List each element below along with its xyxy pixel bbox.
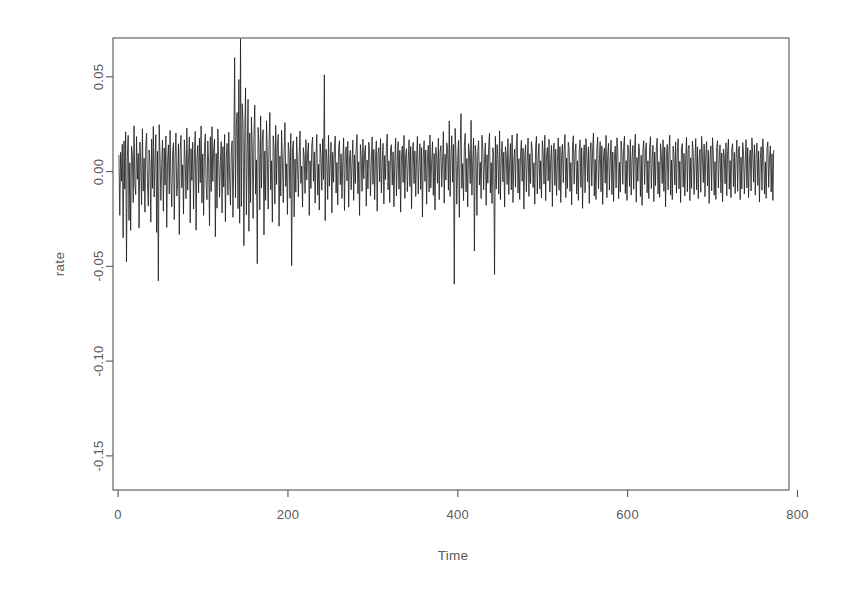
- xtick-label-1: 200: [258, 507, 318, 522]
- y-axis-title: rate: [51, 234, 69, 294]
- ytick-label-3: -0.10: [90, 333, 108, 389]
- ytick-label-1: 0.00: [90, 144, 108, 200]
- ytick-label-4: -0.15: [90, 428, 108, 484]
- ytick-label-2: -0.05: [90, 238, 108, 294]
- xtick-label-0: 0: [88, 507, 148, 522]
- xtick-label-3: 600: [598, 507, 658, 522]
- xtick-label-4: 800: [767, 507, 827, 522]
- plot-root: 0.05 0.00 -0.05 -0.10 -0.15 0 200 400 60…: [0, 0, 846, 610]
- x-axis-title: Time: [393, 548, 513, 563]
- xtick-label-2: 400: [428, 507, 488, 522]
- plot-box: [113, 38, 789, 490]
- ytick-label-0: 0.05: [90, 49, 108, 105]
